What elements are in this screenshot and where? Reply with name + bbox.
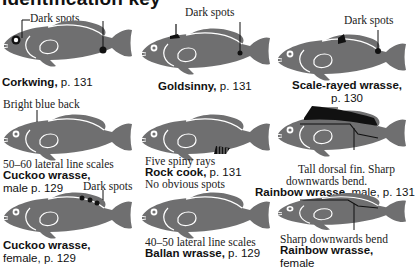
annotation-label: Dark spots	[344, 14, 394, 26]
page-title: Identification key	[2, 0, 161, 10]
cuckoo-wrasse-female-fish-illustration	[0, 186, 135, 244]
rainbow-wrasse-female-fish-illustration	[274, 188, 406, 236]
species-name: Rainbow wrasse,female	[280, 244, 373, 270]
scale-rayed-wrasse-fish-illustration	[274, 28, 406, 86]
species-name: Scale-rayed wrasse,p. 130	[288, 79, 406, 105]
species-name: Cuckoo wrasse,female, p. 129	[3, 239, 91, 265]
species-name: Corkwing, p. 131	[2, 76, 93, 89]
goldsinny-fish-illustration	[138, 22, 273, 80]
corkwing-fish-illustration	[0, 14, 135, 72]
species-name: Ballan wrasse, p. 129	[145, 247, 260, 260]
annotation-label: Tall dorsal fin. Sharp	[298, 163, 395, 175]
species-name: Goldsinny, p. 131	[158, 80, 252, 93]
rainbow-wrasse-male-fish-illustration	[274, 104, 406, 162]
annotation-label: Dark spots	[185, 6, 235, 18]
